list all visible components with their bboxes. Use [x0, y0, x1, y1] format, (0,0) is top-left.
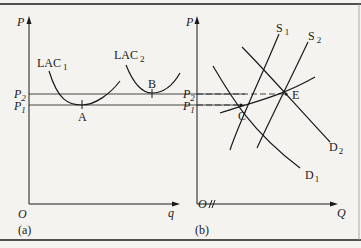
lac1-curve [49, 71, 120, 105]
s2-label: S2 [308, 29, 321, 45]
panel-b-x-label: Q [337, 206, 346, 220]
point-b-label: B [148, 77, 156, 91]
point-c-dot [239, 103, 242, 106]
point-c-label: C [238, 109, 246, 123]
lrs-curve [220, 77, 315, 113]
d1-label: D1 [305, 168, 319, 184]
panel-b-caption: (b) [195, 223, 209, 237]
lac2-label: LAC2 [114, 48, 145, 64]
point-a-label: A [78, 110, 87, 124]
lac1-label: LAC1 [37, 56, 68, 72]
point-e-dot [284, 92, 287, 95]
diagram: P q O (a) P2 P1 A LAC1 B LAC2 P Q O (b) [0, 0, 361, 248]
point-e-label: E [292, 88, 299, 102]
panel-b: P Q O (b) P2 P1 S1 S2 D1 D2 C E [182, 15, 346, 237]
s1-curve [230, 34, 279, 150]
s1-label: S1 [276, 21, 289, 37]
d2-label: D2 [329, 140, 343, 156]
s2-curve [257, 42, 308, 148]
arrow-up-icon [195, 16, 200, 24]
panel-a-y-label: P [16, 15, 25, 29]
panel-b-origin: O [198, 197, 207, 211]
panel-a-x-label: q [168, 206, 174, 220]
panel-b-y-label: P [185, 15, 194, 29]
arrow-up-icon [27, 16, 32, 24]
d1-curve [213, 66, 300, 168]
panel-a-caption: (a) [18, 223, 31, 237]
panel-a-origin: O [18, 207, 27, 221]
